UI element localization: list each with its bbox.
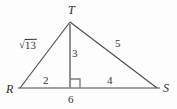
right-angle-marker — [70, 79, 80, 88]
vertex-label-S: S — [163, 82, 169, 94]
base-total-label: 6 — [68, 94, 74, 105]
side-label-TS: 5 — [115, 38, 121, 49]
geometry-figure: T R S √13 3 5 2 4 6 — [0, 0, 177, 109]
base-segment-label-left: 2 — [43, 75, 49, 86]
vertex-label-T: T — [68, 4, 75, 16]
triangle-drawing — [0, 0, 177, 109]
base-segment-label-right: 4 — [107, 75, 113, 86]
side-label-sqrt13: √13 — [19, 39, 37, 51]
segment-TS — [70, 22, 157, 88]
altitude-label: 3 — [72, 48, 78, 59]
radicand-value: 13 — [24, 39, 36, 51]
vertex-label-R: R — [6, 83, 13, 95]
